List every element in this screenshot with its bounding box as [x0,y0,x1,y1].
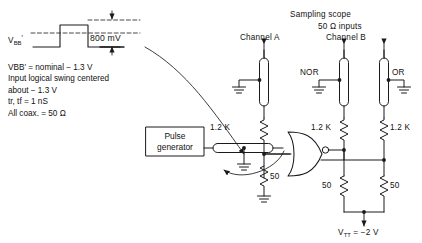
resistor-1k2-nor [340,118,348,150]
resistor-label-50-or: 50 [390,181,400,192]
resistor-1k2-a [260,118,268,154]
resistor-label-50-input: 50 [270,172,280,183]
notes-block: VBB′ = nominal − 1.3 V Input logical swi… [8,62,109,119]
pulse-generator-line2: generator [146,142,204,153]
note-line-2: Input logical swing centered [8,73,109,84]
resistor-1k2-or [380,118,388,160]
resistor-50-input [260,166,268,196]
ground-or [389,80,411,93]
waveform-reference-lines [31,20,140,33]
note-line-1: VBB′ = nominal − 1.3 V [8,62,109,73]
resistor-label-1k2-or: 1.2 K [390,123,410,134]
resistor-label-50-nor: 50 [322,181,332,192]
nor-output-bubble [322,147,328,153]
resistor-50-or [380,176,388,212]
ground-a [233,80,260,93]
sampling-scope-title: Sampling scope [290,10,351,21]
channel-a-label: Channel A [240,33,280,44]
coax-connector-a [260,50,269,118]
vtt-supply-label: VTT = −2 V [338,228,379,241]
resistor-label-1k2-nor: 1.2 K [311,123,331,134]
or-label: OR [392,68,405,79]
ground-input-terminator [258,196,271,202]
vbb-waveform-label: VBB′ [8,33,23,49]
resistor-50-nor [340,176,348,212]
channel-b-label: Channel B [326,33,366,44]
pulse-generator-label: Pulse generator [146,131,204,153]
or-gate-symbol [288,132,322,176]
junction-dot [387,78,391,82]
note-line-3: about − 1.3 V [8,85,109,96]
scope-inputs-label: 50 Ω inputs [318,22,362,33]
junction-dot [338,78,342,82]
coax-connector-nor [340,50,349,118]
note-line-5: All coax. = 50 Ω [8,108,109,119]
amplitude-label: 800 mV [90,33,121,44]
note-line-4: tr, tf = 1 nS [8,96,109,107]
coax-connector-or [380,50,389,118]
junction-dot [258,78,262,82]
schematic-figure: VBB′ 800 mV VBB′ = nominal − 1.3 V Input… [0,0,422,243]
pulse-generator-line1: Pulse [146,131,204,142]
nor-label: NOR [300,68,319,79]
ground-input-coax [238,148,251,170]
resistor-label-1k2-a: 1.2 K [210,123,230,134]
ground-nor [313,80,340,93]
